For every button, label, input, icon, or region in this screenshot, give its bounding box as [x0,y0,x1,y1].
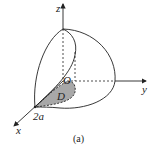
origin-label: O [63,74,71,86]
region-label: D [56,90,65,102]
y-label: y [141,83,147,95]
figure-caption: (a) [73,133,84,145]
point-2a-label: 2a [33,110,45,122]
solid-diagram: z y x O D 2a (a) [0,0,157,150]
x-label: x [15,124,21,136]
point-2a [34,106,36,108]
z-label: z [55,2,61,14]
